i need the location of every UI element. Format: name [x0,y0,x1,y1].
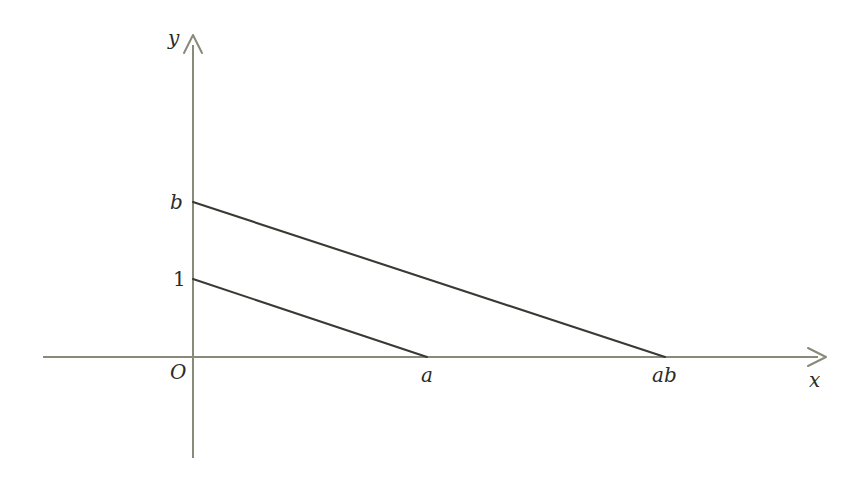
line-segment-one-to-a [193,279,427,357]
coordinate-plot-svg [0,0,862,480]
line-segment-b-to-ab [193,202,665,357]
x-tick-label-a: a [421,365,433,385]
origin-label: O [170,362,186,382]
y-tick-label-b: b [170,192,183,212]
y-tick-label-one: 1 [173,269,186,289]
x-axis-label: x [809,370,820,390]
x-tick-label-ab: ab [652,365,677,385]
figure-canvas: y b 1 O a ab x [0,0,862,480]
y-axis-label: y [168,28,179,48]
